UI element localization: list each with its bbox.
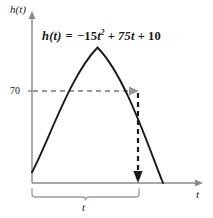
y-tick-label-70: 70 <box>10 86 20 96</box>
parabola-curve <box>32 48 163 184</box>
x-axis-label: t <box>196 189 199 200</box>
equation-constant: 10 <box>148 29 161 43</box>
x-axis <box>32 180 203 187</box>
equation-plus-1: + <box>108 29 115 43</box>
quadratic-height-graph-figure: h(t) h(t)=−15t2+75t+10 70 t t <box>0 0 213 218</box>
brace-label-t: t <box>82 202 85 213</box>
y-axis <box>29 11 36 183</box>
equation-quadratic-coefficient: −15 <box>77 29 97 43</box>
y-axis-label: h(t) <box>10 4 26 15</box>
equation-equals: = <box>66 29 73 43</box>
equation-quadratic-exponent: 2 <box>101 28 105 37</box>
time-at-height-70-drop-line <box>133 93 142 183</box>
equation-linear-term: 75t <box>118 29 135 43</box>
equation-plus-2: + <box>138 29 145 43</box>
time-interval-brace <box>32 189 139 200</box>
equation-annotation: h(t)=−15t2+75t+10 <box>42 29 161 43</box>
equation-lhs: h(t) <box>42 29 62 43</box>
